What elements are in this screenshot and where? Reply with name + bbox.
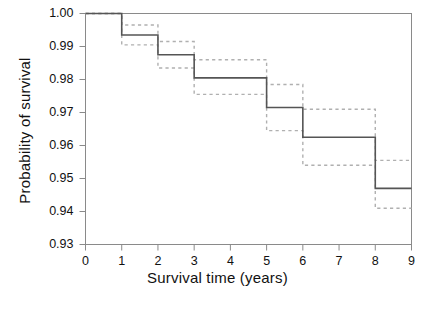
axis-ticks: [80, 14, 412, 251]
x-tick-label: 7: [329, 254, 349, 268]
x-tick-label: 0: [76, 254, 96, 268]
y-tick-label: 0.99: [30, 39, 74, 53]
y-tick-label: 0.96: [30, 138, 74, 152]
x-tick-label: 5: [257, 254, 277, 268]
x-tick-label: 8: [365, 254, 385, 268]
y-tick-label: 0.93: [30, 237, 74, 251]
x-tick-label: 9: [402, 254, 422, 268]
x-axis-title: Survival time (years): [0, 269, 435, 286]
x-tick-label: 3: [184, 254, 204, 268]
y-tick-label: 0.98: [30, 72, 74, 86]
x-tick-label: 1: [112, 254, 132, 268]
y-tick-label: 1.00: [30, 6, 74, 20]
x-tick-label: 4: [220, 254, 240, 268]
y-tick-label: 0.97: [30, 105, 74, 119]
plot-frame: [86, 14, 412, 245]
y-tick-label: 0.94: [30, 204, 74, 218]
survival-step-line: [86, 14, 412, 189]
survival-curve-figure: Survival time (years) Probability of sur…: [0, 0, 435, 315]
confidence-band-lines: [86, 14, 412, 209]
x-tick-label: 6: [293, 254, 313, 268]
y-tick-label: 0.95: [30, 171, 74, 185]
x-tick-label: 2: [148, 254, 168, 268]
